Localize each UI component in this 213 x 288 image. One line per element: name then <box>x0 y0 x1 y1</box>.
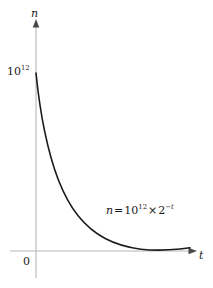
y-axis-tick-label: 1012 <box>7 66 30 77</box>
curve-equation-annotation: n=1012×2−t <box>106 205 174 216</box>
equation-exponent-variable: t <box>171 203 174 211</box>
plot-area <box>0 0 213 288</box>
equation-coefficient-base: 10 <box>124 204 138 217</box>
y-axis-arrowhead <box>33 19 40 28</box>
equation-factor-exponent: −t <box>165 203 173 211</box>
equation-coefficient-exponent: 12 <box>138 203 147 211</box>
x-axis-arrowhead <box>189 248 198 255</box>
equation-times-sign: × <box>147 204 158 217</box>
origin-label: 0 <box>23 256 30 267</box>
equation-equals: = <box>113 204 124 217</box>
y-axis-label: n <box>31 8 38 19</box>
exponential-decay-figure: n t 0 1012 n=1012×2−t <box>0 0 213 288</box>
x-axis-label: t <box>199 250 203 261</box>
y-tick-exponent: 12 <box>21 64 30 72</box>
y-tick-base: 10 <box>7 65 21 78</box>
decay-curve <box>36 73 190 250</box>
